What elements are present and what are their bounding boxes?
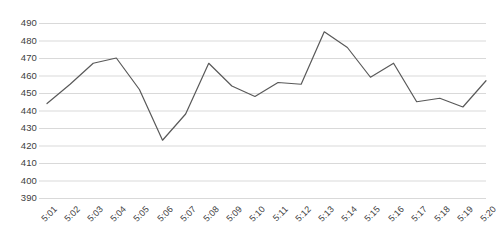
y-axis-tick-label: 460 [9, 71, 37, 81]
y-axis-tick-label: 390 [9, 193, 37, 203]
y-axis-tick-label: 470 [9, 53, 37, 63]
y-axis-tick-label: 450 [9, 88, 37, 98]
y-axis-tick-label: 400 [9, 176, 37, 186]
y-axis-tick-label: 480 [9, 36, 37, 46]
series-line [47, 32, 486, 141]
line-chart: 490480470460450440430420410400390 5:015:… [0, 0, 500, 248]
y-axis-tick-label: 440 [9, 106, 37, 116]
series-group [47, 32, 486, 141]
gridline-group [39, 24, 486, 199]
y-axis-tick-label: 430 [9, 123, 37, 133]
y-axis-tick-label: 490 [9, 18, 37, 28]
y-axis-tick-label: 410 [9, 158, 37, 168]
y-axis-tick-label: 420 [9, 141, 37, 151]
